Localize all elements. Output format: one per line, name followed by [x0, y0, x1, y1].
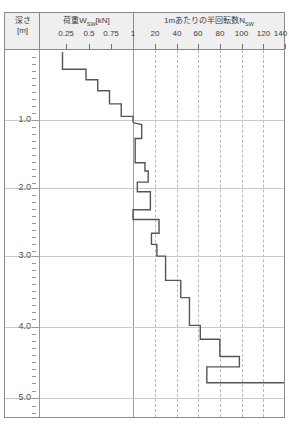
- nsw-axis-tick-5: [263, 44, 264, 49]
- nsw-axis-title-subscript: SW: [245, 21, 254, 27]
- nsw-axis-tick-4: [242, 44, 243, 49]
- load-axis-title-subscript: SW: [87, 21, 96, 27]
- nsw-tick-label-6: 140: [272, 29, 289, 38]
- load-curve: [63, 52, 134, 123]
- load-axis-title-main: 荷重W: [63, 16, 87, 25]
- nsw-axis-tick-1: [177, 44, 178, 49]
- nsw-axis-tick-3: [220, 44, 221, 49]
- sounding-curves: [5, 50, 284, 417]
- nsw-axis-tick-2: [198, 44, 199, 49]
- load-axis-title: 荷重WSW[kN]: [40, 16, 133, 29]
- nsw-axis-tick-0: [155, 44, 156, 49]
- load-axis-tick-1: [89, 44, 90, 49]
- nsw-tick-label-4: 100: [230, 29, 253, 38]
- depth-axis-title-line1: 深さ: [6, 16, 39, 25]
- nsw-tick-label-1: 40: [167, 29, 187, 38]
- load-axis-tick-0: [66, 44, 67, 49]
- sws-chart-root: 深さ [m] 荷重WSW[kN] 1mあたりの半回転数NSW 0.25 0.5 …: [0, 0, 289, 426]
- load-axis-tick-2: [111, 44, 112, 49]
- load-tick-label-2: 0.75: [100, 29, 122, 38]
- load-tick-label-0: 0.25: [55, 29, 77, 38]
- load-tick-label-3: 1: [127, 29, 139, 38]
- nsw-axis-title: 1mあたりの半回転数NSW: [134, 16, 284, 29]
- nsw-tick-label-2: 60: [188, 29, 208, 38]
- nsw-tick-label-3: 80: [210, 29, 230, 38]
- nsw-tick-label-0: 20: [145, 29, 165, 38]
- nsw-axis-title-main: 1mあたりの半回転数N: [164, 16, 245, 25]
- nsw-curve: [133, 123, 284, 403]
- load-tick-label-1: 0.5: [79, 29, 99, 38]
- depth-axis-title-line2: [m]: [6, 26, 39, 35]
- plot-area: 1.0 2.0 3.0 4.0 5.0: [5, 50, 284, 417]
- nsw-axis-tick-6: [285, 44, 286, 49]
- load-axis-title-unit: [kN]: [96, 16, 110, 25]
